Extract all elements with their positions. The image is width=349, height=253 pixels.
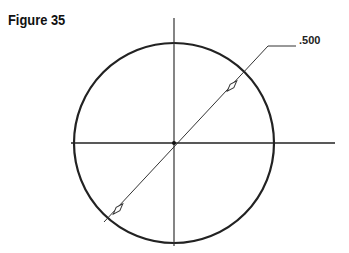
arrowhead-upper-icon: [225, 79, 238, 93]
arrowhead-lower-icon: [111, 202, 124, 216]
diameter-dimension-line: [104, 46, 268, 222]
circle-drawing: [0, 0, 349, 253]
center-point: [172, 141, 176, 145]
diameter-dimension-label: .500: [299, 34, 320, 46]
